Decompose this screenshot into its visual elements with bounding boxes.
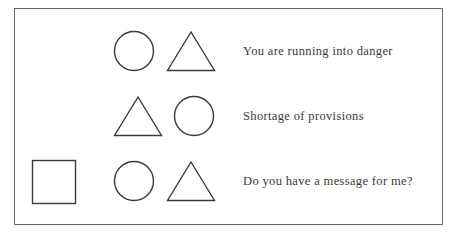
message-text: Shortage of provisions bbox=[243, 85, 364, 147]
shape-group bbox=[15, 150, 220, 212]
signal-code-chart: You are running into danger Shortage of … bbox=[0, 0, 458, 238]
circle-shape bbox=[112, 29, 156, 73]
message-text: You are running into danger bbox=[243, 20, 393, 82]
triangle-shape bbox=[165, 29, 217, 73]
square-shape bbox=[31, 159, 77, 205]
triangle-shape bbox=[112, 94, 164, 138]
shape-group bbox=[15, 20, 220, 82]
triangle-shape bbox=[165, 159, 217, 203]
shape-group bbox=[15, 85, 220, 147]
code-row: Shortage of provisions bbox=[15, 85, 444, 147]
code-row: Do you have a message for me? bbox=[15, 150, 444, 212]
chart-frame: You are running into danger Shortage of … bbox=[14, 8, 443, 225]
circle-shape bbox=[172, 94, 216, 138]
circle-shape bbox=[112, 159, 156, 203]
message-text: Do you have a message for me? bbox=[243, 150, 413, 212]
code-row: You are running into danger bbox=[15, 20, 444, 82]
